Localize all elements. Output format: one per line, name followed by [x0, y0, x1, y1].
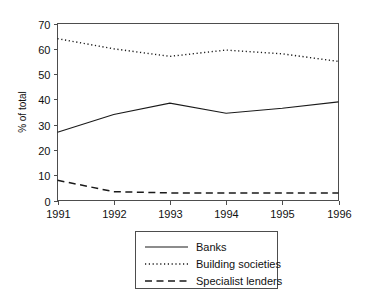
- legend-label-banks: Banks: [196, 241, 227, 253]
- y-axis-title: % of total: [17, 91, 28, 133]
- x-tick-label: 1995: [270, 208, 294, 220]
- x-tick-label: 1993: [158, 208, 182, 220]
- x-tick-label: 1994: [214, 208, 238, 220]
- series-line-banks: [58, 102, 339, 132]
- y-tick-label: 70: [38, 19, 50, 31]
- plot-area-frame: [58, 24, 339, 201]
- y-tick-label: 10: [38, 170, 50, 182]
- y-tick-label: 60: [38, 44, 50, 56]
- series-line-specialist-lenders: [58, 180, 339, 193]
- data-series-group: [58, 39, 339, 193]
- y-axis-tick-labels: 010203040506070: [38, 19, 50, 208]
- y-tick-label: 50: [38, 69, 50, 81]
- x-axis-ticks: [59, 201, 340, 205]
- x-axis-tick-labels: 199119921993199419951996: [46, 208, 351, 220]
- series-line-building-societies: [58, 39, 339, 62]
- x-tick-label: 1991: [46, 208, 70, 220]
- y-tick-label: 30: [38, 120, 50, 132]
- line-chart-figure: 010203040506070 199119921993199419951996…: [0, 0, 375, 297]
- chart-legend: BanksBuilding societiesSpecialist lender…: [136, 232, 283, 289]
- y-tick-label: 40: [38, 94, 50, 106]
- x-tick-label: 1992: [102, 208, 126, 220]
- x-tick-label: 1996: [327, 208, 351, 220]
- y-axis-ticks: [54, 25, 58, 202]
- chart-canvas: 010203040506070 199119921993199419951996…: [0, 0, 375, 297]
- y-tick-label: 20: [38, 145, 50, 157]
- y-tick-label: 0: [44, 196, 50, 208]
- legend-label-building-societies: Building societies: [196, 258, 281, 270]
- legend-label-specialist-lenders: Specialist lenders: [196, 275, 283, 287]
